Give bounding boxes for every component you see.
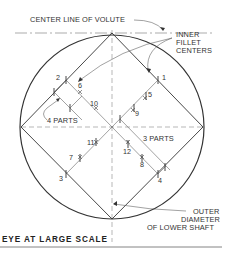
diagram-title: EYE AT LARGE SCALE: [2, 235, 108, 244]
arrowhead-center-line: [160, 27, 165, 31]
point-label-3: 3: [59, 174, 63, 183]
point-label-9: 9: [135, 109, 139, 118]
label-inner-fillet-3: CENTERS: [176, 46, 212, 55]
arrowhead-outer-diameter: [113, 201, 117, 206]
label-four-parts: 4 PARTS: [47, 116, 78, 125]
four-parts-tick-b: [70, 96, 82, 108]
point-label-2: 2: [56, 73, 60, 82]
point-label-12: 12: [123, 147, 131, 156]
leader-center-line: [134, 20, 163, 30]
point-label-8: 8: [140, 160, 144, 169]
leader-outer-diameter: [114, 204, 186, 211]
point-label-11: 11: [87, 138, 94, 147]
point-label-1: 1: [162, 73, 166, 82]
point-label-6: 6: [78, 81, 82, 90]
point-label-7: 7: [69, 153, 73, 162]
point-label-10: 10: [90, 99, 98, 108]
label-center-line: CENTER LINE OF VOLUTE: [30, 15, 125, 24]
diagonal-lower-left: [66, 127, 112, 174]
leader-inner-fillet-left: [80, 38, 172, 80]
fillet-center-markers: [78, 90, 147, 159]
point-label-4: 4: [158, 176, 162, 185]
point-label-5: 5: [148, 90, 152, 99]
volute-eye-diagram: CENTER LINE OF VOLUTE INNER FILLET CENTE…: [0, 0, 232, 255]
arrowhead-four-parts: [56, 98, 60, 102]
diagonal-upper-right: [112, 80, 158, 127]
label-outer-3: OF LOWER SHAFT: [147, 223, 214, 232]
label-three-parts: 3 PARTS: [143, 134, 174, 143]
